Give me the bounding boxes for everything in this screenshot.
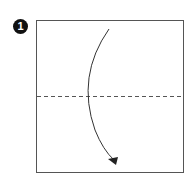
fold-arrow	[88, 29, 114, 160]
arrowhead-icon	[108, 157, 118, 165]
fold-diagram	[0, 0, 196, 185]
